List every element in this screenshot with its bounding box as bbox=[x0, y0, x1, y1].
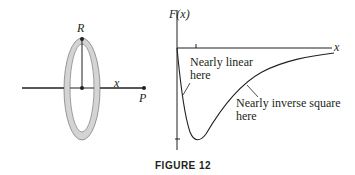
annotation-inverse-square: Nearly inverse square here bbox=[236, 97, 341, 123]
point-p bbox=[142, 86, 146, 90]
x-axis-label: x bbox=[334, 41, 339, 54]
center-point bbox=[80, 86, 84, 90]
figure-caption: FIGURE 12 bbox=[155, 160, 211, 171]
distance-label: x bbox=[114, 77, 119, 90]
annotation-linear: Nearly linear here bbox=[190, 56, 253, 82]
point-label: P bbox=[139, 92, 146, 105]
figure: R x P F(x) x Nearly linear here Nearly i… bbox=[0, 0, 355, 175]
figure-graphics bbox=[0, 0, 355, 175]
leader-linear bbox=[183, 83, 190, 95]
radius-point bbox=[80, 37, 84, 41]
ring-diagram bbox=[22, 37, 146, 140]
radius-label: R bbox=[77, 22, 84, 35]
y-axis-label: F(x) bbox=[169, 8, 190, 21]
